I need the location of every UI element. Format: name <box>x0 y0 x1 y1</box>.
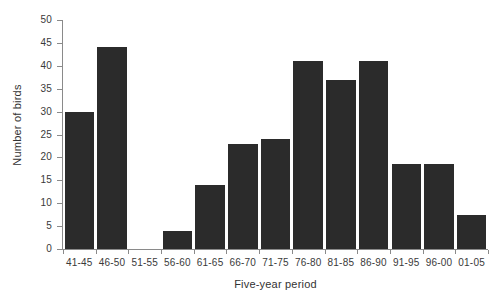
y-axis-tick-label: 20 <box>12 152 52 162</box>
y-axis-tick <box>57 226 62 227</box>
bar <box>97 47 126 249</box>
x-axis-line <box>62 249 488 250</box>
y-axis-tick <box>57 180 62 181</box>
bar <box>65 112 94 249</box>
x-axis-tick-label: 61-65 <box>194 257 227 268</box>
y-axis-tick-label: 30 <box>12 107 52 117</box>
bar <box>228 144 257 249</box>
x-axis-tick-label: 96-00 <box>423 257 456 268</box>
x-axis-tick <box>423 250 424 254</box>
x-axis-tick-label: 71-75 <box>259 257 292 268</box>
y-axis-tick-label: 45 <box>12 38 52 48</box>
bar <box>424 164 453 249</box>
y-axis-tick-label: 15 <box>12 175 52 185</box>
x-axis-tick <box>96 250 97 254</box>
x-axis-tick <box>292 250 293 254</box>
x-axis-tick <box>259 250 260 254</box>
y-axis-tick-label: 25 <box>12 130 52 140</box>
bar <box>293 61 322 249</box>
y-axis-tick-label: 0 <box>12 244 52 254</box>
x-axis-tick <box>63 250 64 254</box>
x-axis-tick <box>390 250 391 254</box>
x-axis-tick-label: 56-60 <box>161 257 194 268</box>
y-axis-tick <box>57 66 62 67</box>
x-axis-tick <box>325 250 326 254</box>
x-axis-tick-label: 76-80 <box>292 257 325 268</box>
x-axis-tick-label: 86-90 <box>357 257 390 268</box>
y-axis-tick <box>57 89 62 90</box>
y-axis-tick <box>57 43 62 44</box>
x-axis-tick <box>194 250 195 254</box>
y-axis-tick <box>57 112 62 113</box>
y-axis-tick-label: 35 <box>12 84 52 94</box>
x-axis-tick <box>226 250 227 254</box>
y-axis-tick-label: 40 <box>12 61 52 71</box>
bar <box>261 139 290 249</box>
bar <box>326 80 355 249</box>
bar <box>359 61 388 249</box>
x-axis-tick <box>455 250 456 254</box>
x-axis-tick <box>161 250 162 254</box>
y-axis-tick <box>57 20 62 21</box>
x-axis-tick-label: 81-85 <box>325 257 358 268</box>
x-axis-title: Five-year period <box>63 278 488 290</box>
bar <box>163 231 192 249</box>
x-axis-tick-label: 91-95 <box>390 257 423 268</box>
y-axis-tick-label: 10 <box>12 198 52 208</box>
y-axis-tick <box>57 135 62 136</box>
bar-chart: Number of birds 05101520253035404550 41-… <box>0 0 494 304</box>
x-axis-tick <box>488 250 489 254</box>
x-axis-tick-label: 46-50 <box>96 257 129 268</box>
bar <box>392 164 421 249</box>
x-axis-tick <box>357 250 358 254</box>
y-axis-tick <box>57 249 62 250</box>
y-axis-tick <box>57 157 62 158</box>
x-axis-tick <box>128 250 129 254</box>
y-axis-tick-label: 50 <box>12 15 52 25</box>
y-axis-line <box>62 20 63 250</box>
x-axis-tick-label: 01-05 <box>455 257 488 268</box>
y-axis-tick <box>57 203 62 204</box>
bar <box>195 185 224 249</box>
x-axis-tick-label: 51-55 <box>128 257 161 268</box>
x-axis-tick-label: 41-45 <box>63 257 96 268</box>
bar <box>457 215 486 249</box>
y-axis-tick-label: 5 <box>12 221 52 231</box>
x-axis-tick-label: 66-70 <box>226 257 259 268</box>
